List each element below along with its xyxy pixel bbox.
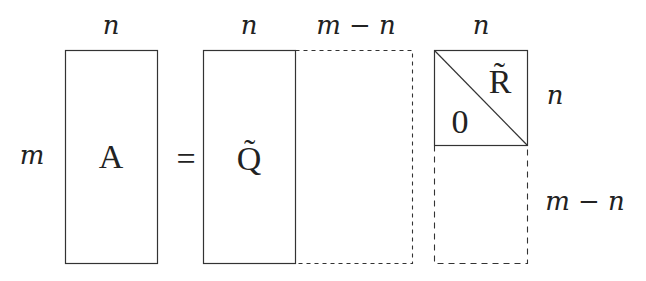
qr-diagram: n n m − n n m n m − n A = Q̃ R̃ 0 (0, 0, 646, 281)
label-col-r: n (473, 10, 490, 40)
matrix-r-zero-label: 0 (452, 103, 469, 140)
label-col-q: n (241, 10, 258, 40)
equals-sign: = (176, 140, 195, 177)
matrix-q-label: Q̃ (237, 139, 262, 177)
matrix-r-diagonal (435, 51, 528, 146)
label-row-r-bottom: m − n (545, 186, 625, 216)
label-row-r-top: n (547, 80, 564, 110)
matrix-r-label: R̃ (489, 62, 512, 100)
label-row-a: m (20, 140, 45, 170)
matrix-a-label: A (99, 138, 124, 175)
matrix-r-zero-block-box (435, 146, 528, 264)
label-col-a: n (103, 10, 120, 40)
label-col-q-ext: m − n (316, 10, 396, 40)
matrix-q-extension-box (296, 51, 413, 264)
